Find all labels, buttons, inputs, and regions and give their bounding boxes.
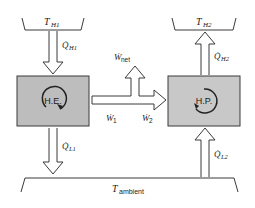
heat-engine-label: H.E. [44, 96, 62, 106]
th1-symbol: T [44, 16, 51, 27]
q-l1-symbol: Q̇ [62, 141, 69, 151]
th1-subscript: H1 [50, 21, 60, 29]
arrow-q-h1: Q̇ H1 [43, 31, 77, 74]
w-net-subscript: net [121, 56, 130, 63]
heat-engine-box: H.E. [17, 76, 89, 126]
th2-symbol: T [196, 16, 203, 27]
q-h2-symbol: Q̇ [214, 51, 221, 61]
q-l2-subscript: L2 [220, 153, 229, 160]
ambient-symbol: T [112, 183, 119, 194]
arrow-q-l2: Q̇ L2 [195, 128, 229, 177]
arrow-q-l1: Q̇ L1 [43, 128, 76, 174]
diagram-canvas: T H1 T H2 T ambient Q̇ H1 H.E. H.P. Ẇ n… [0, 0, 255, 208]
arrow-q-h2: Q̇ H2 [195, 32, 230, 75]
w-2-subscript: 2 [149, 117, 153, 124]
q-h1-subscript: H1 [68, 44, 77, 51]
th2-subscript: H2 [202, 21, 212, 29]
heat-pump-box: H.P. [168, 76, 240, 126]
q-l2-symbol: Q̇ [214, 149, 221, 159]
reservoir-ambient: T ambient [21, 178, 238, 195]
q-h1-symbol: Q̇ [62, 40, 69, 50]
reservoir-th2: T H2 [172, 16, 236, 30]
q-l1-subscript: L1 [68, 145, 76, 152]
heat-pump-label: H.P. [196, 96, 212, 106]
ambient-subscript: ambient [119, 188, 144, 195]
arrow-work: Ẇ net Ẇ 1 Ẇ 2 [92, 52, 166, 124]
q-h2-subscript: H2 [220, 55, 230, 62]
w-1-subscript: 1 [113, 117, 117, 124]
reservoir-th1: T H1 [22, 16, 84, 30]
